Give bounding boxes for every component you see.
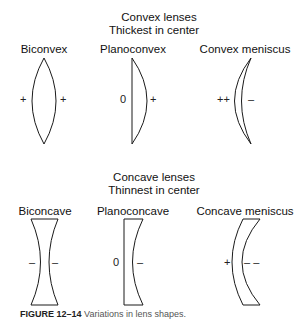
biconvex-lens-shape xyxy=(32,58,56,144)
figure-caption: FIGURE 12–14 Variations in lens shapes. xyxy=(20,309,186,319)
convex-meniscus-right-sign: – xyxy=(248,93,255,105)
biconvex-left-sign: + xyxy=(20,93,26,105)
biconcave-left-sign: – xyxy=(29,256,36,268)
planoconvex-lens-shape xyxy=(132,58,147,144)
figure-caption-text: Variations in lens shapes. xyxy=(84,309,186,319)
planoconcave-right-sign: – xyxy=(137,256,144,268)
planoconvex-right-sign: + xyxy=(150,93,156,105)
biconvex-right-sign: + xyxy=(60,93,66,105)
planoconcave-left-sign: 0 xyxy=(113,256,119,268)
concave-meniscus-right-sign: – – xyxy=(244,256,260,268)
planoconvex-left-sign: 0 xyxy=(120,93,126,105)
concave-meniscus-left-sign: + xyxy=(224,256,230,268)
convex-meniscus-left-sign: ++ xyxy=(217,93,230,105)
biconcave-right-sign: – xyxy=(52,256,59,268)
figure-caption-label: FIGURE 12–14 xyxy=(20,309,82,319)
